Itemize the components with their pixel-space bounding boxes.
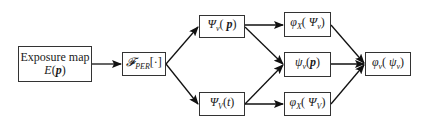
phi-v-psi-v-formula: φv( ψv) xyxy=(372,56,404,73)
edge-fper-to-psi-v-p xyxy=(166,27,198,64)
fper-formula: 𝓕PER[·] xyxy=(126,56,162,73)
edge-psi-v-p-to-psi-v-p-small xyxy=(245,27,283,64)
edge-phiX-psi-V-to-final xyxy=(331,65,364,104)
node-fper-operator: 𝓕PER[·] xyxy=(122,52,166,76)
edge-psi-V-t-to-psi-v-p-small xyxy=(245,65,283,104)
node-exposure-map: Exposure map E(p) xyxy=(18,46,92,82)
edge-phiX-psi-v-to-final xyxy=(331,25,364,63)
node-phiX-psi-V: φX( ΨV) xyxy=(284,92,331,116)
psi-v-p-formula: Ψv( p) xyxy=(208,18,237,35)
node-psi-V-t: ΨV(t) xyxy=(199,92,245,116)
psi-V-t-formula: ΨV(t) xyxy=(210,96,235,113)
edge-fper-to-psi-V-t xyxy=(166,64,198,104)
node-phi-v-psi-v: φv( ψv) xyxy=(365,52,411,76)
psi-v-p-small-formula: ψv(p) xyxy=(295,56,320,73)
node-psi-v-p-small: ψv(p) xyxy=(284,52,331,77)
node-phiX-psi-v: φX( Ψv) xyxy=(284,12,331,37)
phiX-psi-V-formula: φX( ΨV) xyxy=(290,96,326,113)
phiX-psi-v-formula: φX( Ψv) xyxy=(290,16,325,33)
node-psi-v-p: Ψv( p) xyxy=(199,15,245,38)
exposure-map-formula: E(p) xyxy=(44,64,65,77)
